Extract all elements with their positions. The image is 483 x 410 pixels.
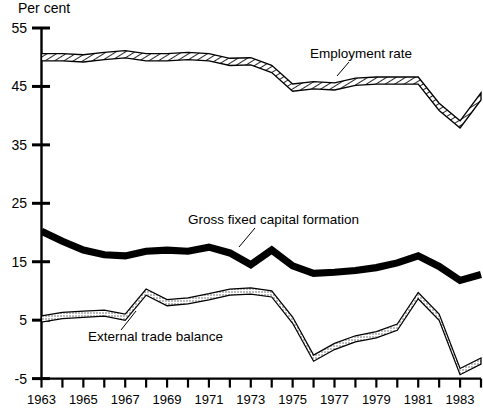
annotation-external-trade-balance: External trade balance bbox=[88, 329, 223, 344]
x-tick-label: 1963 bbox=[27, 392, 56, 407]
annotation-gross-fixed-capital-formation: Gross fixed capital formation bbox=[188, 212, 359, 227]
y-tick-label: 35 bbox=[11, 137, 27, 153]
y-axis-title: Per cent bbox=[18, 0, 70, 16]
x-tick-label: 1979 bbox=[362, 392, 391, 407]
y-tick-label: 55 bbox=[11, 20, 27, 36]
line-chart: Per cent 55453525155-5 19631965196719691… bbox=[0, 0, 483, 410]
x-tick-label: 1981 bbox=[404, 392, 433, 407]
x-tick-label: 1971 bbox=[194, 392, 223, 407]
x-tick-label: 1977 bbox=[320, 392, 349, 407]
y-tick-label: 25 bbox=[11, 195, 27, 211]
y-tick-label: 45 bbox=[11, 78, 27, 94]
y-tick-label: -5 bbox=[15, 371, 28, 387]
x-tick-label: 1983 bbox=[446, 392, 475, 407]
y-tick-label: 15 bbox=[11, 254, 27, 270]
chart-container: Per cent 55453525155-5 19631965196719691… bbox=[0, 0, 483, 410]
y-tick-label: 5 bbox=[19, 312, 27, 328]
x-tick-label: 1973 bbox=[236, 392, 265, 407]
x-tick-label: 1967 bbox=[111, 392, 140, 407]
x-tick-label: 1975 bbox=[278, 392, 307, 407]
annotation-employment-rate: Employment rate bbox=[310, 46, 412, 61]
x-tick-label: 1965 bbox=[69, 392, 98, 407]
x-tick-label: 1969 bbox=[153, 392, 182, 407]
